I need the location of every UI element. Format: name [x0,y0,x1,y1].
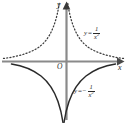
curve-positive-lhs: y [84,30,87,37]
curve-negative-sign: − [83,88,87,95]
curve-label-positive: y = 1 x2 [84,26,101,41]
plot-canvas [0,0,127,123]
curve-negative-lhs: y [74,88,77,95]
y-axis-label: y [57,1,61,9]
curve-negative-denominator-exponent: 2 [91,90,93,95]
curve-positive-denominator-exponent: 2 [97,32,99,37]
x-axis-label: x [118,64,122,72]
curve-negative-fraction: 1 x2 [88,84,95,99]
curve-label-negative: y = − 1 x2 [74,84,95,99]
curve-negative [12,64,116,123]
curve-negative-denominator: x2 [88,92,95,99]
function-graph-figure: y x O y = 1 x2 y = − 1 x2 [0,0,127,123]
y-axis-arrowhead [63,2,71,10]
x-axis [2,58,125,66]
curve-positive-fraction: 1 x2 [93,26,100,41]
curve-positive [4,2,124,58]
curve-negative-equals: = [78,88,82,95]
curve-positive-equals: = [88,30,92,37]
curve-positive-denominator: x2 [93,34,100,41]
origin-label: O [57,63,62,71]
curve-positive-left-branch [4,2,60,58]
curve-negative-left-branch [12,64,64,123]
